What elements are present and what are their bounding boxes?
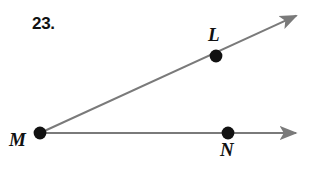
ray-ml-line [40, 16, 296, 133]
point-label-m: M [9, 130, 26, 149]
point-m [34, 127, 47, 140]
geometry-figure: 23. M L N [0, 0, 310, 171]
point-l [210, 50, 223, 63]
point-label-l: L [208, 25, 220, 44]
figure-canvas [0, 0, 310, 171]
point-n [222, 127, 235, 140]
point-label-n: N [220, 140, 234, 159]
